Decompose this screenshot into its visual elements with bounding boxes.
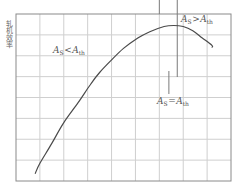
annotation-as-equals-ath: AS=Ath — [157, 96, 189, 109]
ann-mid-sub-th: th — [183, 100, 189, 107]
grid-lines — [16, 14, 231, 181]
ann-right-sub-s: S — [188, 18, 192, 25]
chart-canvas — [0, 0, 232, 188]
annotation-as-greater-than-ath: AS>Ath — [181, 14, 213, 27]
y-axis-label: 轧机效率 — [2, 20, 12, 48]
ann-mid-op: = — [168, 96, 177, 106]
ann-right-sub-th: th — [207, 18, 213, 25]
ann-left-op: < — [64, 45, 73, 55]
ann-left-sub-s: S — [60, 49, 64, 56]
annotation-as-less-than-ath: AS<Ath — [53, 45, 85, 58]
ann-left-sub-th: th — [79, 49, 85, 56]
ann-mid-sub-s: S — [164, 100, 168, 107]
ann-right-op: > — [192, 14, 201, 24]
